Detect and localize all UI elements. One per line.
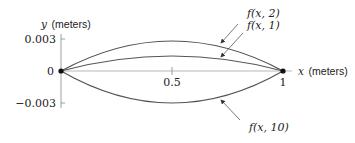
y-tick-label-zero: 0: [47, 65, 54, 78]
annotation-f-x-1: f(x, 1): [246, 19, 280, 32]
arrow-f-x-10: [221, 100, 240, 120]
endpoint-left: [58, 68, 63, 73]
arrow-f-x-1: [221, 33, 243, 57]
chart-container: y (meters) 0.003 0 −0.003 0.5 1 x (meter…: [0, 0, 355, 143]
x-tick-label-half: 0.5: [163, 76, 181, 89]
y-axis-label: y (meters): [40, 18, 91, 30]
endpoint-right: [280, 68, 285, 73]
arrow-f-x-2: [221, 24, 238, 43]
y-tick-label-bottom: −0.003: [15, 97, 56, 110]
annotation-f-x-10: f(x, 10): [248, 121, 289, 134]
x-axis: [61, 67, 292, 75]
x-tick-label-one: 1: [280, 76, 287, 89]
x-axis-label: x (meters): [298, 65, 348, 77]
y-tick-label-top: 0.003: [25, 33, 57, 46]
